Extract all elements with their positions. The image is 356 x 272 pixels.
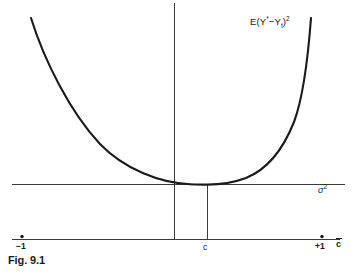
sigma-squared-axis-label: σ2 [318, 186, 327, 195]
figure-caption: Fig. 9.1 [8, 255, 45, 266]
figure-9-1: E(Y*−Yt)2 σ2 −1 +1 c c Fig. 9.1 [0, 0, 356, 272]
sigma-exponent: 2 [323, 183, 327, 190]
figure-canvas [0, 0, 356, 272]
tick-dot-minus-1 [20, 235, 23, 238]
tick-label-minus-1: −1 [16, 242, 26, 251]
curve-label: E(Y*−Yt)2 [250, 17, 290, 27]
mse-parabola-curve [31, 18, 311, 185]
curve-label-prefix: E(Y [250, 16, 266, 27]
c-bar-axis-label: c [336, 240, 341, 249]
c-bar-glyph: c [336, 240, 341, 249]
tick-dot-plus-1 [320, 235, 323, 238]
curve-label-exponent: 2 [286, 15, 290, 22]
curve-label-minus: −Y [269, 16, 281, 27]
c-marker-label: c [203, 243, 207, 252]
tick-label-plus-1: +1 [315, 242, 325, 251]
